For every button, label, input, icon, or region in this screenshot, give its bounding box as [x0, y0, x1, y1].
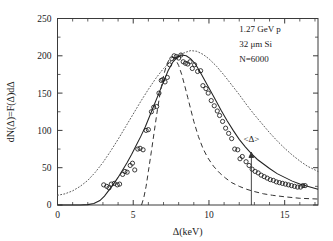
absorber: 32 μm Si [239, 39, 272, 49]
data-point [204, 87, 208, 91]
beam-energy: 1.27 GeV p [239, 24, 281, 34]
y-tick-label: 250 [37, 14, 52, 24]
data-point [220, 119, 224, 123]
data-series-simulated [102, 53, 308, 190]
y-tick-label: 50 [42, 163, 52, 173]
event-count: N=6000 [239, 54, 269, 64]
x-tick-label: 0 [55, 210, 60, 220]
data-point [230, 137, 234, 141]
figure-container: 0510150501001502002501.27 GeV p32 μm SiN… [0, 0, 333, 241]
y-tick-label: 100 [37, 126, 52, 136]
x-tick-label: 15 [280, 210, 290, 220]
data-point [224, 126, 228, 130]
convolved-straggling-solid [58, 55, 319, 205]
data-point [215, 109, 219, 113]
data-point [206, 91, 210, 95]
data-point [209, 98, 213, 102]
mean-marker-label: <Δ> [243, 134, 259, 144]
data-point [217, 113, 221, 117]
x-tick-label: 5 [131, 210, 136, 220]
x-tick-label: 10 [204, 210, 214, 220]
landau-dotted [58, 51, 319, 196]
x-axis-title: Δ(keV) [173, 226, 203, 238]
y-tick-label: 200 [37, 51, 52, 61]
mean-marker-arrow-icon [249, 152, 254, 157]
data-point [244, 160, 248, 164]
y-tick-label: 0 [47, 200, 52, 210]
y-tick-label: 150 [37, 89, 52, 99]
plot-canvas: 0510150501001502002501.27 GeV p32 μm SiN… [0, 0, 333, 241]
data-point [227, 131, 231, 135]
plot-frame [58, 19, 319, 206]
y-axis-title: dN(Δ)=F(Δ)dΔ [5, 81, 17, 143]
data-point [212, 104, 216, 108]
data-point [247, 163, 251, 167]
data-point [133, 168, 137, 172]
